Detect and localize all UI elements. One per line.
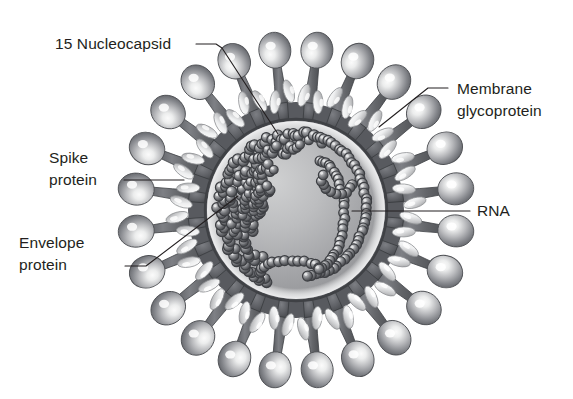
bead-highlight xyxy=(304,273,307,276)
spike-head-highlight xyxy=(446,180,456,188)
spike-head xyxy=(124,250,170,293)
spike-head xyxy=(116,171,156,207)
spike-head-highlight xyxy=(266,361,276,369)
bead-highlight xyxy=(242,168,245,171)
bead-highlight xyxy=(228,221,231,224)
bead-highlight xyxy=(356,170,359,173)
label-nucleocapsid: 15 Nucleocapsid xyxy=(55,35,171,52)
bead-highlight xyxy=(228,188,231,191)
label-spike-protein-line1: Spike xyxy=(49,149,88,166)
spike-head xyxy=(124,127,170,170)
bead-highlight xyxy=(341,210,344,213)
bead-highlight xyxy=(285,131,288,134)
spike-head xyxy=(299,30,335,70)
spike-head-highlight xyxy=(446,222,456,230)
bead-highlight xyxy=(257,186,260,189)
bead-body xyxy=(302,271,312,281)
bead-highlight xyxy=(316,266,319,269)
spike-head xyxy=(336,336,379,382)
coronavirus-diagram: 15 NucleocapsidMembraneglycoproteinSpike… xyxy=(0,0,573,399)
bead-highlight xyxy=(336,181,339,184)
bead-highlight xyxy=(236,172,239,175)
spike-head-highlight xyxy=(138,140,148,148)
bead-highlight xyxy=(340,226,343,229)
bead-highlight xyxy=(263,134,266,137)
nucleocapsid-bead xyxy=(269,165,278,174)
bead-highlight xyxy=(328,139,331,142)
spike-head-highlight xyxy=(385,329,395,337)
nucleocapsid-bead xyxy=(318,170,328,180)
spike-head-highlight xyxy=(415,300,425,308)
nucleocapsid-bead xyxy=(262,181,272,191)
spike-head-highlight xyxy=(189,329,199,337)
bead-highlight xyxy=(301,258,304,261)
bead-highlight xyxy=(361,219,364,222)
label-rna: RNA xyxy=(477,202,511,219)
bead-highlight xyxy=(287,143,290,146)
spike-head xyxy=(213,336,256,382)
bead-highlight xyxy=(341,202,344,205)
bead-highlight xyxy=(342,215,345,218)
bead-highlight xyxy=(346,155,349,158)
bead-highlight xyxy=(351,246,354,249)
spike-head xyxy=(213,38,256,84)
bead-highlight xyxy=(361,190,364,193)
bead-body xyxy=(226,186,237,197)
spike-head xyxy=(422,250,468,293)
bead-highlight xyxy=(363,214,366,217)
bead-highlight xyxy=(336,242,339,245)
bead-highlight xyxy=(351,162,354,165)
bead-body xyxy=(318,170,328,180)
spike-head xyxy=(257,350,293,390)
spike-head-highlight xyxy=(308,361,318,369)
label-envelope-protein-line2: protein xyxy=(19,256,67,273)
bead-highlight xyxy=(357,176,360,179)
bead-highlight xyxy=(265,147,268,150)
nucleocapsid-bead xyxy=(226,186,237,197)
spike-head-highlight xyxy=(436,263,446,271)
bead-highlight xyxy=(271,167,274,170)
nucleocapsid-bead xyxy=(314,264,324,274)
spike-head-highlight xyxy=(225,350,235,358)
bead-highlight xyxy=(363,205,366,208)
spike-head-highlight xyxy=(159,104,169,112)
membrane-glycoprotein xyxy=(313,90,324,113)
spike-head-highlight xyxy=(138,263,148,271)
spike-head xyxy=(422,127,468,170)
bead-highlight xyxy=(273,143,276,146)
bead-highlight xyxy=(320,172,323,175)
bead-highlight xyxy=(303,129,306,132)
spike-head-highlight xyxy=(436,140,446,148)
bead-highlight xyxy=(264,183,267,186)
figure-canvas: 15 NucleocapsidMembraneglycoproteinSpike… xyxy=(0,0,573,399)
bead-highlight xyxy=(275,258,278,261)
spike-head xyxy=(336,38,379,84)
bead-highlight xyxy=(281,257,284,260)
bead-highlight xyxy=(339,148,342,151)
bead-body xyxy=(314,264,324,274)
bead-highlight xyxy=(289,258,292,261)
spike-head xyxy=(257,30,293,70)
spike-head-highlight xyxy=(414,103,424,111)
bead-highlight xyxy=(343,150,346,153)
bead-highlight xyxy=(335,176,338,179)
spike-head-highlight xyxy=(385,74,395,82)
spike-head xyxy=(436,171,476,207)
spike-head-highlight xyxy=(266,42,276,50)
bead-highlight xyxy=(312,261,315,264)
bead-highlight xyxy=(234,156,237,159)
spike-head-highlight xyxy=(188,74,198,82)
spike-head-highlight xyxy=(348,350,358,358)
label-envelope-protein-line1: Envelope xyxy=(19,234,84,251)
nucleocapsid-bead xyxy=(295,140,304,149)
bead-highlight xyxy=(251,142,254,145)
spike-head-highlight xyxy=(348,53,358,61)
label-membrane-glycoprotein-line2: glycoprotein xyxy=(457,102,542,119)
bead-body xyxy=(295,140,304,149)
bead-highlight xyxy=(248,179,251,182)
bead-highlight xyxy=(214,204,217,207)
bead-highlight xyxy=(269,136,272,139)
bead-highlight xyxy=(295,258,298,261)
bead-highlight xyxy=(246,190,249,193)
label-spike-protein-line2: protein xyxy=(49,171,97,188)
